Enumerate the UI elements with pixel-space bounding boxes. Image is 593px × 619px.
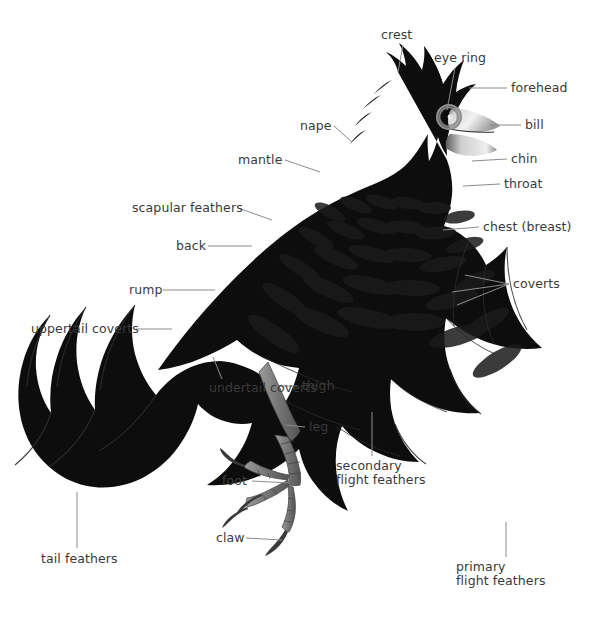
label-claw: claw [216, 531, 245, 545]
label-scapular-feathers: scapular feathers [132, 201, 243, 215]
label-eye-ring: eye ring [434, 51, 486, 65]
leader-line-nape [334, 126, 352, 142]
toe-middle [246, 480, 289, 507]
label-rump: rump [129, 283, 163, 297]
label-bill: bill [525, 118, 544, 132]
toe-outer [282, 486, 295, 532]
leader-line-mantle [285, 160, 320, 172]
label-back: back [176, 239, 206, 253]
label-tail-feathers: tail feathers [41, 552, 118, 566]
label-forehead: forehead [511, 81, 568, 95]
label-primary-flight-feathers: primary flight feathers [456, 560, 546, 588]
label-secondary-flight-feathers: secondary flight feathers [336, 459, 426, 487]
label-mantle: mantle [238, 153, 282, 167]
eye-pupil [448, 115, 453, 120]
bird-anatomy-diagram [0, 0, 593, 619]
label-nape: nape [300, 119, 332, 133]
leader-line-throat [463, 184, 500, 186]
label-undertail-coverts: undertail coverts [209, 381, 317, 395]
label-thigh: thigh [302, 379, 335, 393]
leader-line-chin [472, 159, 507, 161]
label-coverts: coverts [513, 277, 560, 291]
label-uppertail-coverts: uppertail coverts [31, 322, 139, 336]
label-crest: crest [381, 28, 412, 42]
label-chin: chin [511, 152, 538, 166]
label-foot: foot [222, 474, 247, 488]
leader-line-claw [246, 538, 282, 540]
label-leg: leg [309, 420, 328, 434]
label-throat: throat [504, 177, 543, 191]
bird-illustration [15, 43, 542, 556]
bill-lower [446, 134, 497, 156]
leader-line-scapular-feathers [238, 208, 272, 220]
label-chest-breast: chest (breast) [483, 220, 572, 234]
